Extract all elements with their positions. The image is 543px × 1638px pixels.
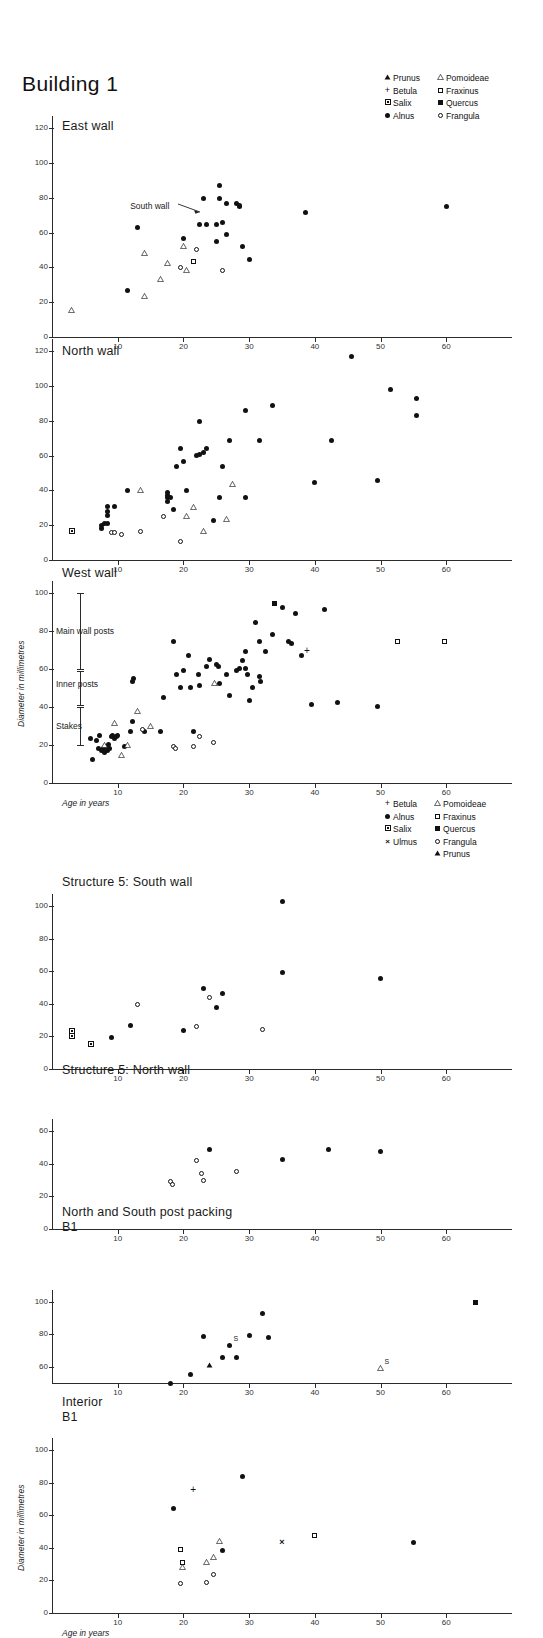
data-point-alnus bbox=[414, 387, 419, 405]
data-point-alnus bbox=[125, 479, 130, 497]
marker-open-circle bbox=[201, 1178, 206, 1183]
data-point-alnus bbox=[184, 479, 189, 497]
marker-filled-circle bbox=[309, 702, 314, 707]
x-axis-tick-label: 50 bbox=[369, 1074, 393, 1083]
marker-filled-circle bbox=[220, 1548, 225, 1553]
data-point-alnus bbox=[240, 235, 245, 253]
y-axis-tick-label: 120 bbox=[26, 346, 48, 355]
marker-open-triangle bbox=[200, 520, 207, 526]
marker-filled-circle bbox=[280, 605, 285, 610]
legend-symbol-left: × bbox=[382, 836, 393, 849]
legend-label-left bbox=[393, 848, 432, 861]
x-axis-tick-label: 60 bbox=[434, 1618, 458, 1627]
marker-filled-circle bbox=[227, 693, 232, 698]
x-axis-line bbox=[52, 1383, 512, 1384]
legend-row: +BetulaFraxinus bbox=[382, 85, 504, 98]
data-point-frangula bbox=[194, 1149, 199, 1167]
legend-label-right: Quercus bbox=[443, 823, 501, 836]
y-axis-tick bbox=[49, 163, 54, 164]
x-axis-line bbox=[52, 560, 512, 561]
legend-symbol-right bbox=[435, 97, 446, 110]
y-axis-line bbox=[52, 1119, 53, 1230]
marker-open-circle bbox=[194, 247, 199, 252]
marker-open-circle bbox=[260, 1027, 265, 1032]
data-point-quercus bbox=[473, 1291, 478, 1309]
data-point-alnus bbox=[188, 676, 193, 694]
data-point-fraxinus bbox=[442, 630, 447, 648]
data-point-pomoideae bbox=[200, 520, 207, 538]
y-axis-tick bbox=[49, 560, 54, 561]
marker-filled-circle bbox=[171, 1506, 176, 1511]
data-point-alnus bbox=[214, 213, 219, 231]
data-point-pomoideae bbox=[124, 734, 131, 752]
data-point-salix bbox=[69, 1025, 75, 1043]
y-axis-tick-label: 20 bbox=[26, 1575, 48, 1584]
data-point-alnus bbox=[312, 471, 317, 489]
legend-bottom: +BetulaPomoideaeAlnusFraxinusSalixQuercu… bbox=[382, 798, 501, 861]
marker-filled-circle bbox=[197, 419, 202, 424]
marker-open-square bbox=[435, 814, 440, 819]
marker-filled-circle bbox=[204, 446, 209, 451]
data-point-alnus bbox=[131, 667, 136, 685]
marker-filled-circle bbox=[243, 495, 248, 500]
y-axis-tick bbox=[49, 631, 54, 632]
marker-filled-circle bbox=[201, 1334, 206, 1339]
marker-filled-circle bbox=[174, 464, 179, 469]
legend-symbol-right bbox=[432, 823, 443, 836]
marker-filled-circle bbox=[158, 729, 163, 734]
y-axis-tick bbox=[49, 1196, 54, 1197]
data-point-alnus bbox=[444, 195, 449, 213]
marker-plus: + bbox=[189, 1486, 197, 1494]
marker-open-circle bbox=[173, 746, 178, 751]
marker-open-circle bbox=[211, 1572, 216, 1577]
legend-symbol-right bbox=[432, 836, 443, 849]
data-point-pomoideae bbox=[111, 712, 118, 730]
data-point-alnus bbox=[207, 1138, 212, 1156]
marker-filled-circle bbox=[280, 970, 285, 975]
data-point-pomoideae bbox=[68, 299, 75, 317]
data-point-frangula bbox=[112, 521, 117, 539]
data-point-alnus bbox=[158, 720, 163, 738]
data-point-alnus bbox=[280, 961, 285, 979]
data-point-alnus bbox=[227, 1334, 232, 1352]
marker-filled-circle bbox=[131, 676, 136, 681]
y-axis-tick bbox=[49, 1613, 54, 1614]
data-point-alnus bbox=[378, 1140, 383, 1158]
marker-filled-circle bbox=[224, 201, 229, 206]
x-axis-line bbox=[52, 1229, 512, 1230]
data-point-ulmus: × bbox=[278, 1531, 286, 1549]
y-axis-tick bbox=[49, 971, 54, 972]
legend-row: ×UlmusFrangula bbox=[382, 836, 501, 849]
x-axis-tick-label: 30 bbox=[237, 342, 261, 351]
y-axis-tick bbox=[49, 421, 54, 422]
legend-symbol-left bbox=[382, 110, 393, 123]
marker-open-circle bbox=[178, 1581, 183, 1586]
marker-open-triangle bbox=[190, 496, 197, 502]
data-point-alnus bbox=[174, 455, 179, 473]
legend-symbol-left bbox=[382, 811, 393, 824]
marker-filled-circle bbox=[128, 729, 133, 734]
x-axis-tick-label: 60 bbox=[434, 565, 458, 574]
marker-filled-circle bbox=[270, 632, 275, 637]
data-point-pomoideae bbox=[216, 1530, 223, 1548]
data-point-alnus bbox=[211, 509, 216, 527]
y-axis-tick-label: 100 bbox=[26, 381, 48, 390]
marker-filled-square bbox=[435, 826, 440, 831]
legend-label-right: Frangula bbox=[446, 110, 504, 123]
y-axis-tick-label: 100 bbox=[26, 1445, 48, 1454]
bracket-label: Main wall posts bbox=[56, 626, 114, 636]
y-axis-tick-label: 40 bbox=[26, 1159, 48, 1168]
y-axis-tick bbox=[49, 745, 54, 746]
legend-label-left: Salix bbox=[393, 97, 435, 110]
data-point-frangula bbox=[197, 725, 202, 743]
data-point-alnus bbox=[105, 495, 110, 513]
panel-title: North wall bbox=[62, 344, 120, 358]
x-axis-tick-label: 60 bbox=[434, 788, 458, 797]
marker-filled-circle bbox=[105, 504, 110, 509]
data-point-alnus bbox=[201, 977, 206, 995]
y-axis-tick-label: 80 bbox=[26, 416, 48, 425]
marker-open-triangle bbox=[437, 72, 444, 78]
legend-symbol-left bbox=[382, 848, 393, 861]
marker-open-triangle bbox=[124, 734, 131, 740]
data-point-alnus bbox=[349, 345, 354, 363]
